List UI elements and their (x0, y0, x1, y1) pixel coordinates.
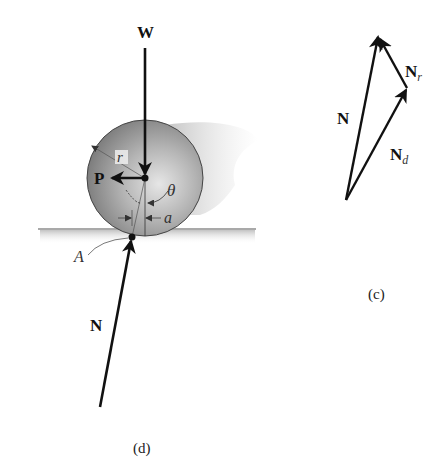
weight-label: W (137, 23, 154, 42)
normal-force-label: N (90, 316, 103, 335)
push-force-label: P (94, 169, 104, 188)
theta-label: θ (167, 181, 175, 200)
offset-label: a (164, 209, 172, 226)
figure-c-vector-triangle: N Nr Nd (c) (337, 37, 422, 303)
nr-arrow (380, 39, 407, 88)
normal-force-arrow (100, 241, 131, 407)
contact-point-a (129, 234, 136, 241)
nd-label-main: N (390, 145, 403, 164)
contact-point-label: A (73, 248, 84, 265)
resultant-n-label: N (337, 109, 350, 128)
figure-c-caption: (c) (368, 286, 385, 303)
nd-label-sub: d (402, 153, 409, 167)
wheel-center-point (142, 175, 149, 182)
figure-d-caption: (d) (133, 440, 151, 457)
figure-d: r θ a W P A N (d) (38, 23, 258, 457)
nd-label: Nd (390, 145, 409, 167)
radius-label: r (117, 149, 123, 165)
nr-label-main: N (405, 62, 418, 81)
nr-label-sub: r (417, 70, 422, 84)
nr-label: Nr (405, 62, 422, 84)
resultant-n-arrow (346, 37, 378, 200)
rolling-resistance-figure: r θ a W P A N (d) N Nr (0, 0, 436, 461)
